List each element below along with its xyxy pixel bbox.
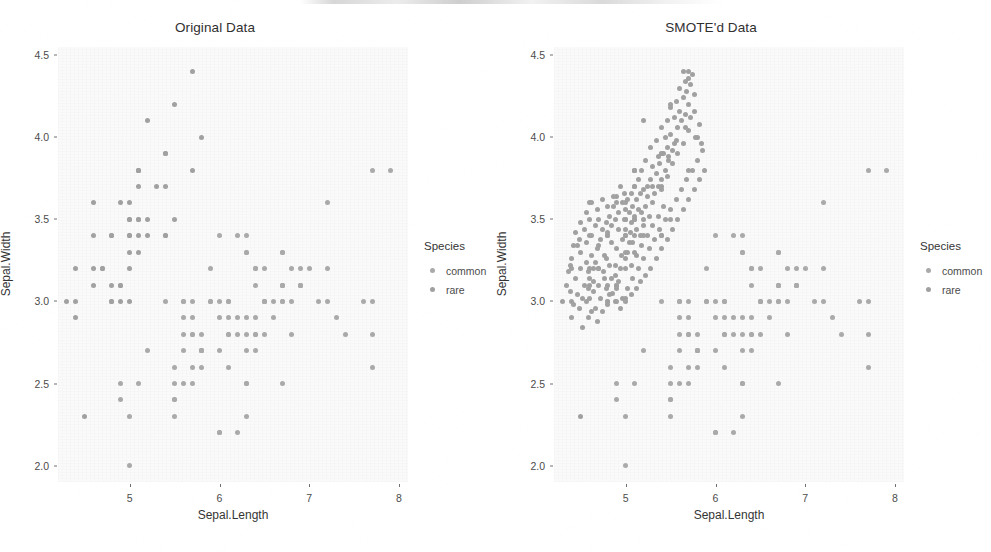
- legend-original: Species common rare: [424, 240, 496, 299]
- data-point-rare: [630, 276, 635, 281]
- data-point-rare: [636, 266, 641, 271]
- data-point-rare: [607, 263, 612, 268]
- data-point-rare: [697, 122, 702, 127]
- data-point-rare: [674, 99, 679, 104]
- data-point-common: [758, 332, 763, 337]
- y-tick-mark: [550, 55, 553, 56]
- y-tick-label: 4.5: [511, 49, 545, 61]
- data-point-common: [785, 332, 790, 337]
- data-point-common: [217, 315, 222, 320]
- data-point-rare: [700, 148, 705, 153]
- data-point-common: [280, 381, 285, 386]
- data-point-rare: [623, 227, 628, 232]
- data-point-common: [686, 315, 691, 320]
- data-point-rare: [661, 204, 666, 209]
- data-point-rare: [677, 109, 682, 114]
- data-point-common: [190, 381, 195, 386]
- data-point-rare: [643, 204, 648, 209]
- data-point-common: [298, 266, 303, 271]
- data-point-rare: [611, 194, 616, 199]
- data-point-rare: [670, 148, 675, 153]
- data-point-common: [794, 266, 799, 271]
- x-tick-label: 5: [611, 492, 641, 504]
- data-point-common: [262, 299, 267, 304]
- data-point-common: [740, 250, 745, 255]
- data-point-rare: [665, 145, 670, 150]
- legend-item-rare[interactable]: rare: [920, 280, 991, 299]
- data-point-common: [199, 332, 204, 337]
- data-point-rare: [697, 177, 702, 182]
- data-point-common: [857, 299, 862, 304]
- data-point-rare: [602, 253, 607, 258]
- y-tick-label: 2.0: [15, 460, 49, 472]
- data-point-common: [695, 365, 700, 370]
- data-point-rare: [587, 217, 592, 222]
- data-point-common: [325, 299, 330, 304]
- data-point-rare: [668, 207, 673, 212]
- data-point-rare: [614, 246, 619, 251]
- data-point-common: [713, 430, 718, 435]
- data-point-common: [740, 348, 745, 353]
- data-point-rare: [127, 200, 132, 205]
- data-point-rare: [564, 283, 569, 288]
- data-point-common: [136, 381, 141, 386]
- data-point-rare: [643, 273, 648, 278]
- data-point-common: [758, 266, 763, 271]
- data-point-rare: [681, 69, 686, 74]
- data-point-rare: [598, 237, 603, 242]
- data-point-rare: [634, 197, 639, 202]
- data-point-common: [659, 299, 664, 304]
- data-point-rare: [136, 233, 141, 238]
- data-point-rare: [683, 125, 688, 130]
- legend-label-common: common: [942, 265, 982, 277]
- data-point-rare: [638, 233, 643, 238]
- data-point-rare: [679, 118, 684, 123]
- y-tick-label: 3.5: [15, 213, 49, 225]
- data-point-rare: [91, 283, 96, 288]
- data-point-rare: [163, 184, 168, 189]
- data-point-rare: [73, 315, 78, 320]
- data-point-common: [722, 332, 727, 337]
- data-point-common: [821, 266, 826, 271]
- data-point-common: [704, 266, 709, 271]
- data-point-common: [731, 332, 736, 337]
- data-point-common: [253, 266, 258, 271]
- data-point-rare: [692, 187, 697, 192]
- data-point-rare: [604, 286, 609, 291]
- data-point-common: [686, 381, 691, 386]
- data-point-rare: [578, 266, 583, 271]
- x-tick-mark: [805, 484, 806, 487]
- legend-key-rare-icon: [920, 287, 936, 292]
- data-point-common: [812, 299, 817, 304]
- data-point-common: [704, 299, 709, 304]
- data-point-rare: [659, 177, 664, 182]
- data-point-common: [713, 299, 718, 304]
- data-point-common: [199, 365, 204, 370]
- legend-item-common[interactable]: common: [424, 261, 496, 280]
- data-point-rare: [679, 187, 684, 192]
- data-point-common: [172, 365, 177, 370]
- data-point-common: [731, 233, 736, 238]
- legend-item-common[interactable]: common: [920, 261, 991, 280]
- data-point-common: [217, 233, 222, 238]
- data-point-rare: [632, 184, 637, 189]
- data-point-rare: [595, 319, 600, 324]
- y-tick-mark: [550, 301, 553, 302]
- data-point-common: [190, 332, 195, 337]
- data-point-rare: [616, 227, 621, 232]
- data-point-common: [226, 315, 231, 320]
- data-point-common: [370, 332, 375, 337]
- data-point-common: [307, 266, 312, 271]
- data-point-common: [641, 348, 646, 353]
- data-point-rare: [573, 276, 578, 281]
- data-point-common: [289, 266, 294, 271]
- data-point-common: [244, 250, 249, 255]
- legend-item-rare[interactable]: rare: [424, 280, 496, 299]
- y-tick-mark: [550, 383, 553, 384]
- data-point-rare: [172, 217, 177, 222]
- data-point-rare: [199, 135, 204, 140]
- data-point-common: [262, 266, 267, 271]
- data-point-common: [767, 299, 772, 304]
- data-point-common: [614, 381, 619, 386]
- data-point-rare: [665, 118, 670, 123]
